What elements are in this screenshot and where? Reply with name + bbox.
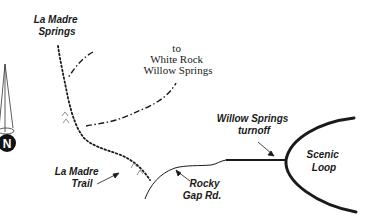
trail-map: N La Madre Springs to White Rock Willow … (0, 0, 374, 220)
label-willow-springs-turnoff: Willow Springs turnoff (217, 113, 291, 136)
pointer-arrows (97, 142, 274, 184)
white-rock-connector-trail-path (86, 83, 176, 126)
north-letter: N (3, 137, 12, 151)
label-scenic-loop: Scenic Loop (306, 149, 341, 173)
label-la-madre-springs: La Madre Springs (34, 14, 81, 37)
upper-connector-trail-path (68, 52, 93, 78)
la-madre-trail-path (58, 46, 150, 180)
north-arrow-icon: N (0, 64, 16, 152)
label-to-white-rock: to White Rock Willow Springs (144, 42, 213, 76)
label-rocky-gap-rd: Rocky Gap Rd. (183, 178, 223, 201)
label-la-madre-trail: La Madre Trail (55, 166, 102, 189)
